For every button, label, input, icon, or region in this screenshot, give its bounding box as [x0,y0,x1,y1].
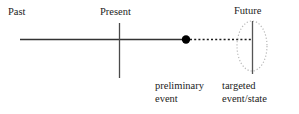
label-targeted-event-line-2: event/state [222,93,267,106]
label-present: Present [100,6,131,18]
label-future: Future [234,5,261,17]
preliminary-event-dot [182,35,190,43]
label-past: Past [8,6,26,18]
label-targeted-event: targeted event/state [222,80,267,105]
label-preliminary-event: preliminary event [155,80,204,105]
timeline-diagram: Past Present Future preliminary event ta… [0,0,299,114]
label-preliminary-event-line-1: preliminary [155,80,204,93]
label-targeted-event-line-1: targeted [222,80,267,93]
label-preliminary-event-line-2: event [155,93,204,106]
